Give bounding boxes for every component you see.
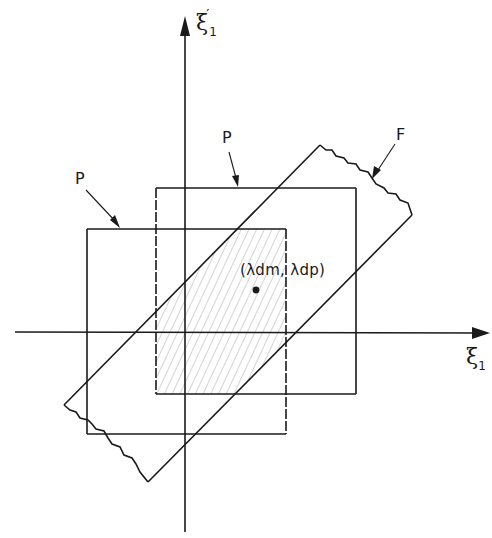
shaded-intersection-region [156, 229, 286, 394]
point-marker [253, 287, 260, 294]
point-label: (λdm, λdp) [240, 263, 325, 278]
leader-p-left [86, 190, 116, 222]
leader-p-top [229, 152, 236, 178]
label-f: F [396, 127, 405, 143]
band-bottom-break [64, 405, 148, 482]
label-p-top: P [222, 130, 232, 146]
horizontal-axis [15, 332, 480, 333]
leader-arrows [86, 144, 395, 228]
horizontal-axis-arrowhead [472, 327, 490, 339]
vertical-axis-label: ξ′1 [196, 8, 217, 38]
horizontal-axis-label: ξ1 [466, 346, 486, 372]
label-p-left: P [75, 171, 85, 187]
band-top-break [320, 145, 412, 215]
vertical-axis-arrowhead [180, 16, 190, 36]
diagram-canvas: ξ′1 ξ1 P P F (λdm, λdp) [0, 0, 492, 538]
leader-f [378, 144, 395, 170]
